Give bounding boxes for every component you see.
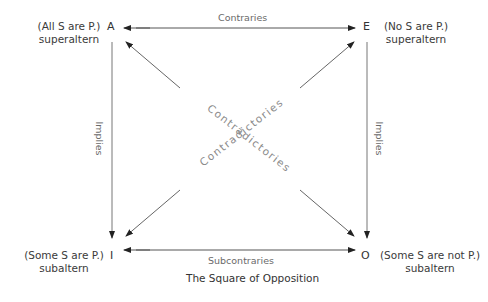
corner-o-proposition: (Some S are not P.) bbox=[380, 249, 480, 262]
subcontraries-label: Subcontraries bbox=[208, 255, 274, 266]
corner-i-letter: I bbox=[110, 249, 113, 262]
diagram-title: The Square of Opposition bbox=[186, 272, 319, 284]
corner-e-letter: E bbox=[363, 20, 370, 33]
contraries-label: Contraries bbox=[218, 12, 267, 23]
corner-a-letter: A bbox=[107, 20, 115, 33]
diagonal-to-A bbox=[126, 42, 180, 88]
corner-i-description: (Some S are P.) subaltern bbox=[24, 249, 104, 275]
implies-right-label: Implies bbox=[374, 121, 385, 155]
corner-a-role: superaltern bbox=[34, 33, 104, 46]
corner-a-description: (All S are P.) superaltern bbox=[34, 20, 104, 46]
corner-o-description: (Some S are not P.) subaltern bbox=[380, 249, 480, 275]
corner-e-role: superaltern bbox=[382, 33, 450, 46]
corner-e-description: (No S are P.) superaltern bbox=[382, 20, 450, 46]
diagonal-to-E bbox=[300, 42, 354, 88]
corner-e-proposition: (No S are P.) bbox=[382, 20, 450, 33]
corner-a-proposition: (All S are P.) bbox=[34, 20, 104, 33]
corner-i-role: subaltern bbox=[24, 262, 104, 275]
diagonal-to-O bbox=[300, 190, 354, 236]
diagonal-to-I bbox=[126, 190, 180, 236]
implies-left-label: Implies bbox=[94, 121, 105, 155]
corner-o-role: subaltern bbox=[380, 262, 480, 275]
corner-o-letter: O bbox=[361, 249, 370, 262]
corner-i-proposition: (Some S are P.) bbox=[24, 249, 104, 262]
